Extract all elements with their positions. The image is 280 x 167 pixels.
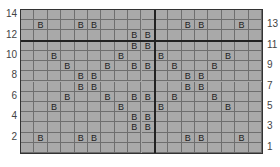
grid-cell [235, 10, 248, 20]
grid-cell [142, 51, 155, 61]
grid-cell [101, 20, 114, 30]
grid-cell [115, 20, 128, 30]
grid-cell: B [182, 82, 195, 92]
grid-cell [115, 92, 128, 102]
grid-cell [222, 133, 235, 143]
grid-cell [208, 112, 221, 122]
grid-cell [115, 71, 128, 81]
grid-cell [21, 41, 34, 51]
grid-cell [128, 20, 141, 30]
grid-cell [142, 71, 155, 81]
grid-cell [142, 102, 155, 112]
grid-cell [61, 71, 74, 81]
grid-cell [155, 122, 168, 132]
grid-cell [88, 10, 101, 20]
grid-cell: B [155, 51, 168, 61]
grid-cell: B [101, 92, 114, 102]
grid-cell [195, 41, 208, 51]
grid-cell [142, 143, 155, 153]
grid-cell [21, 102, 34, 112]
grid-cell [168, 112, 181, 122]
grid-cell: B [61, 61, 74, 71]
grid-cell [88, 41, 101, 51]
grid-cell: B [115, 102, 128, 112]
grid-cell [21, 10, 34, 20]
grid-cell: B [182, 20, 195, 30]
row-label-right: 7 [267, 80, 273, 91]
grid-cell [249, 143, 262, 153]
grid-cell [75, 61, 88, 71]
grid-cell [34, 122, 47, 132]
grid-cell: B [142, 61, 155, 71]
grid-cell: B [128, 122, 141, 132]
grid-cell [115, 112, 128, 122]
grid-cell [235, 122, 248, 132]
grid-cell [235, 112, 248, 122]
grid-cell [48, 41, 61, 51]
grid-cell [34, 82, 47, 92]
grid-cell [195, 122, 208, 132]
grid-cell [182, 102, 195, 112]
grid-cell [101, 51, 114, 61]
grid-cell [48, 61, 61, 71]
grid-cell [155, 112, 168, 122]
grid-cell [61, 133, 74, 143]
grid-cell [195, 112, 208, 122]
grid-cell: B [61, 92, 74, 102]
grid-cell [34, 41, 47, 51]
grid-cell [34, 102, 47, 112]
grid-cell [208, 102, 221, 112]
grid-cell [101, 133, 114, 143]
grid-cell [222, 143, 235, 153]
grid-cell [115, 10, 128, 20]
grid-cell [75, 122, 88, 132]
grid-cell [222, 41, 235, 51]
grid-cell [155, 71, 168, 81]
grid-cell [208, 10, 221, 20]
grid-cell [142, 82, 155, 92]
grid-cell [182, 92, 195, 102]
grid-cell [101, 102, 114, 112]
grid-cell [48, 82, 61, 92]
grid-cell: B [195, 133, 208, 143]
grid-cell [88, 51, 101, 61]
grid-cell [222, 82, 235, 92]
grid-cell [21, 71, 34, 81]
row-label-right: 9 [267, 59, 273, 70]
grid-cell [75, 102, 88, 112]
grid-cell [235, 51, 248, 61]
grid-cell [235, 102, 248, 112]
grid-cell: B [128, 61, 141, 71]
row-label-right: 13 [267, 18, 278, 29]
grid-cell [128, 102, 141, 112]
grid-cell [115, 133, 128, 143]
grid-cell: B [34, 20, 47, 30]
row-label-right: 5 [267, 100, 273, 111]
row-label-right: 1 [267, 141, 273, 152]
grid-cell [61, 102, 74, 112]
grid-cell [61, 122, 74, 132]
grid-cell [21, 92, 34, 102]
grid-cell [34, 61, 47, 71]
grid-cell [75, 51, 88, 61]
grid-cell [142, 10, 155, 20]
grid-cell: B [168, 92, 181, 102]
grid-cell: B [88, 71, 101, 81]
grid-cell [235, 71, 248, 81]
grid-cell [155, 143, 168, 153]
grid-cell [222, 10, 235, 20]
grid-cell: B [88, 20, 101, 30]
grid-cell [101, 10, 114, 20]
grid-cell: B [195, 82, 208, 92]
grid-cell [208, 41, 221, 51]
grid-cell [235, 82, 248, 92]
grid-cell [249, 133, 262, 143]
grid-cell [61, 112, 74, 122]
grid-cell [88, 102, 101, 112]
grid-cell [101, 71, 114, 81]
grid-cell [48, 71, 61, 81]
grid-cell: B [195, 71, 208, 81]
row-label-left: 14 [6, 8, 17, 19]
grid-cell [208, 82, 221, 92]
grid-cell [115, 82, 128, 92]
